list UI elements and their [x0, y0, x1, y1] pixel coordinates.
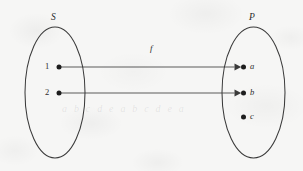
- element-dot-2: [57, 91, 62, 96]
- element-label-1: 1: [45, 62, 49, 71]
- element-dot-a: [241, 65, 246, 70]
- set-label-codomain: P: [249, 13, 255, 23]
- mapping-diagram-graphic: [0, 0, 303, 171]
- function-label-f: f: [150, 44, 153, 53]
- element-label-a: a: [250, 62, 254, 71]
- element-label-b: b: [250, 88, 254, 97]
- set-label-domain: S: [51, 13, 56, 23]
- element-label-c: c: [250, 112, 254, 121]
- mapping-arrow-2-to-b: [61, 90, 241, 97]
- element-dot-1: [57, 65, 62, 70]
- mapping-arrow-1-to-a: [61, 64, 241, 71]
- element-dot-c: [241, 115, 246, 120]
- figure-canvas: a b c d e a b c d e a S P f 1 2 a b: [0, 0, 303, 171]
- set-ellipse-domain: [25, 27, 85, 158]
- element-label-2: 2: [45, 88, 49, 97]
- element-dot-b: [241, 91, 246, 96]
